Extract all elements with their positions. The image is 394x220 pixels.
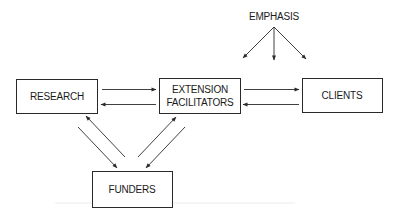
funders-label: FUNDERS bbox=[109, 184, 156, 195]
extension-flow-diagram: EMPHASIS RESEARCH EXTENSION FACILITATORS… bbox=[0, 0, 394, 220]
arrow-research-to-funders bbox=[78, 127, 117, 168]
clients-node: CLIENTS bbox=[303, 79, 383, 113]
clients-label: CLIENTS bbox=[322, 90, 363, 101]
arrow-extension-to-funders bbox=[146, 127, 185, 168]
funders-node: FUNDERS bbox=[93, 172, 173, 208]
emphasis-arrows bbox=[243, 27, 306, 60]
emphasis-label: EMPHASIS bbox=[249, 11, 300, 22]
research-label: RESEARCH bbox=[30, 91, 84, 102]
research-node: RESEARCH bbox=[17, 80, 98, 114]
emphasis-arrow-left bbox=[243, 27, 274, 58]
emphasis-arrow-right bbox=[274, 27, 306, 59]
arrow-funders-to-research bbox=[86, 116, 125, 157]
extension-label-line1: EXTENSION bbox=[172, 84, 228, 95]
extension-label-line2: FACILITATORS bbox=[166, 97, 234, 108]
arrow-funders-to-extension bbox=[138, 117, 176, 157]
extension-facilitators-node: EXTENSION FACILITATORS bbox=[160, 79, 241, 114]
